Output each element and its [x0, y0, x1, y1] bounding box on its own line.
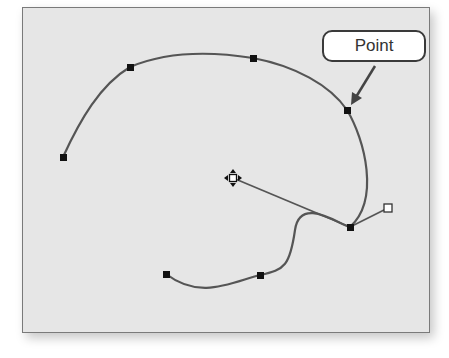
- anchor-point[interactable]: [163, 271, 170, 278]
- anchor-point-selected[interactable]: [347, 224, 354, 231]
- anchor-point[interactable]: [250, 55, 257, 62]
- callout-text: Point: [355, 36, 394, 56]
- callout-label: Point: [322, 30, 426, 62]
- anchor-point[interactable]: [257, 272, 264, 279]
- direction-handle-right[interactable]: [384, 204, 392, 212]
- callout-arrow-line: [356, 66, 375, 97]
- bezier-path[interactable]: [63, 54, 367, 288]
- anchor-point[interactable]: [60, 154, 67, 161]
- anchor-point[interactable]: [127, 64, 134, 71]
- anchor-point[interactable]: [344, 107, 351, 114]
- direction-line-left: [233, 178, 350, 227]
- move-cursor-icon[interactable]: [224, 169, 242, 187]
- direction-line-right: [350, 208, 388, 227]
